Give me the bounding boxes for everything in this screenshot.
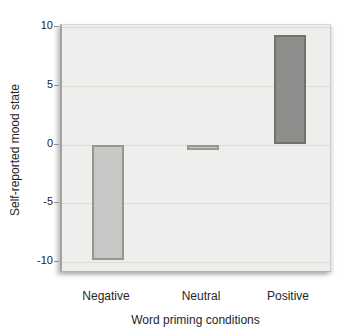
gridline-y-10: [62, 27, 330, 28]
y-tick-label: -5: [19, 195, 53, 208]
chart-figure: Self-reported mood state 1050-5-10 Negat…: [0, 0, 351, 336]
y-tick-label: 0: [19, 137, 53, 150]
y-tick-label: 5: [19, 78, 53, 91]
y-tick-label: 10: [19, 19, 53, 32]
x-category-label-positive: Positive: [243, 289, 333, 303]
y-tick-mark: [54, 202, 59, 203]
bar-neutral: [187, 145, 219, 150]
gridline-y--10: [62, 262, 330, 263]
y-tick-mark: [54, 261, 59, 262]
x-axis-title: Word priming conditions: [60, 313, 331, 327]
y-tick-mark: [54, 144, 59, 145]
x-category-label-neutral: Neutral: [156, 289, 246, 303]
y-tick-label: -10: [19, 254, 53, 267]
plot-area: [60, 24, 331, 272]
y-tick-mark: [54, 85, 59, 86]
y-tick-mark: [54, 26, 59, 27]
x-category-label-negative: Negative: [61, 289, 151, 303]
bar-positive: [274, 35, 306, 144]
bar-negative: [92, 145, 124, 260]
